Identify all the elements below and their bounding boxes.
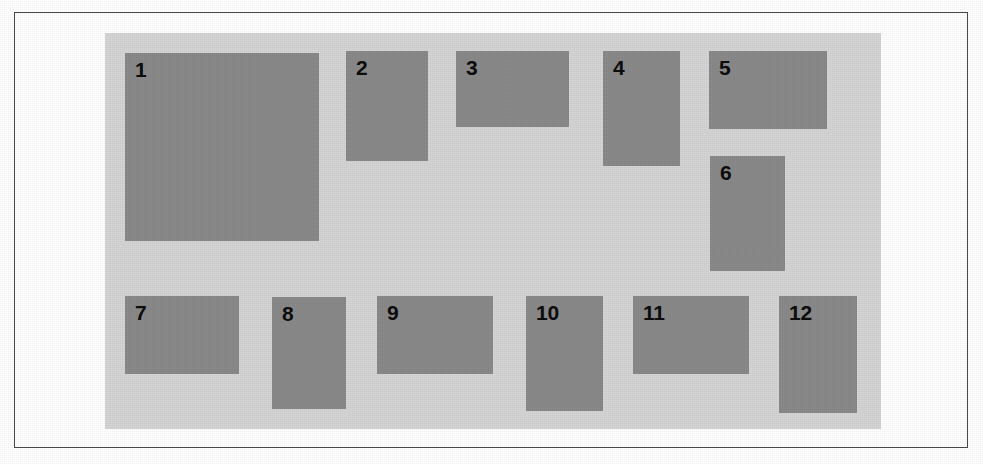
numbered-block: 3 xyxy=(456,51,569,127)
numbered-block: 1 xyxy=(125,53,319,241)
numbered-block: 6 xyxy=(710,156,785,271)
numbered-block: 12 xyxy=(779,296,857,413)
numbered-block: 10 xyxy=(526,296,603,411)
block-number-label: 7 xyxy=(135,302,146,323)
block-number-label: 5 xyxy=(719,57,730,78)
block-number-label: 4 xyxy=(613,57,624,78)
block-number-label: 2 xyxy=(356,57,367,78)
numbered-block: 9 xyxy=(377,296,493,374)
block-number-label: 3 xyxy=(466,57,477,78)
figure-frame-border: 123456789101112 xyxy=(14,12,968,448)
block-number-label: 6 xyxy=(720,162,731,183)
numbered-block: 8 xyxy=(272,297,346,409)
numbered-block: 5 xyxy=(709,51,827,129)
block-number-label: 9 xyxy=(387,302,398,323)
block-number-label: 1 xyxy=(135,59,146,80)
figure-root: 123456789101112 xyxy=(0,0,983,464)
block-number-label: 8 xyxy=(282,303,293,324)
block-number-label: 12 xyxy=(789,302,812,323)
numbered-block: 7 xyxy=(125,296,239,374)
numbered-block: 11 xyxy=(633,296,749,374)
numbered-block: 4 xyxy=(603,51,680,166)
numbered-block: 2 xyxy=(346,51,428,161)
block-number-label: 11 xyxy=(643,302,665,323)
block-number-label: 10 xyxy=(536,302,559,323)
